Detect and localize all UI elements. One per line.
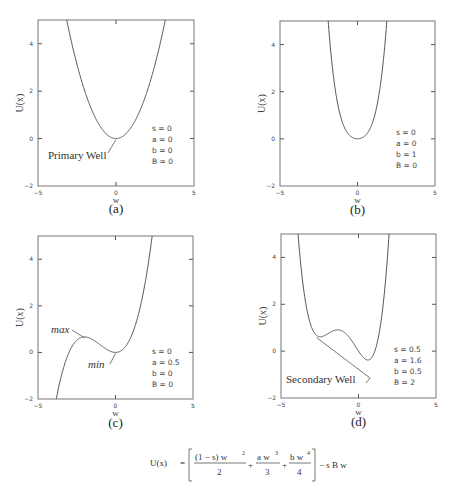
parameter-label: b = 0.5	[394, 367, 422, 376]
parameter-label: B = 0	[152, 157, 173, 166]
y-tick-label: 0	[271, 135, 275, 142]
y-tick-label: 4	[272, 253, 276, 260]
formula-term2-exponent: 3	[275, 450, 278, 456]
y-tick-label: 0	[29, 348, 33, 355]
y-tick-label: −2	[267, 394, 276, 401]
panel-label: (a)	[109, 201, 123, 216]
formula-lhs: U(x)	[150, 458, 167, 468]
chart-panel-d: −2024−505wU(x)s = 0.5a = 1.6b = 0.5B = 2…	[257, 164, 438, 429]
y-axis-title: U(x)	[14, 308, 26, 327]
panel-label: (b)	[350, 202, 365, 217]
x-tick-label: −5	[276, 189, 285, 196]
annotation-primary-well: Primary Well	[48, 149, 107, 161]
annotation-max: max	[51, 323, 69, 335]
formula-plus-1: +	[248, 460, 253, 470]
x-tick-label: −5	[34, 189, 43, 196]
x-tick-label: 5	[434, 401, 438, 408]
formula: U(x) = (1 − s) w 2 2 + a w 3 3 + b w 4 4…	[150, 449, 347, 481]
y-tick-label: 4	[29, 40, 33, 47]
parameter-label: B = 0	[152, 380, 173, 389]
y-tick-label: 2	[271, 88, 275, 95]
formula-plus-2: +	[282, 460, 287, 470]
parameter-label: a = 0.5	[152, 358, 180, 367]
figure: −2024−505wU(x)s = 0a = 0b = 0B = 0Primar…	[0, 0, 452, 489]
chart-panel-c: −2024−505wU(x)s = 0a = 0.5b = 0B = 0maxm…	[14, 166, 195, 469]
y-tick-label: −2	[266, 182, 275, 189]
y-tick-label: 2	[272, 300, 276, 307]
y-tick-label: 4	[271, 41, 275, 48]
annotation-min: min	[88, 358, 105, 370]
formula-term1-numerator: (1 − s) w	[195, 452, 228, 462]
y-tick-label: 2	[29, 87, 33, 94]
x-tick-label: 5	[192, 189, 196, 196]
y-tick-label: 4	[29, 255, 33, 262]
chart-panel-b: −2024−505wU(x)s = 0a = 0b = 1B = 0(b)	[256, 0, 437, 217]
parameter-label: a = 0	[396, 139, 417, 148]
panel-label: (d)	[351, 414, 366, 429]
formula-bracket-left	[189, 449, 192, 481]
formula-term3-denominator: 4	[297, 467, 302, 477]
annotation-leader-line	[72, 330, 85, 338]
parameter-label: a = 1.6	[394, 356, 422, 365]
formula-term3-exponent: 4	[307, 450, 310, 456]
parameter-label: s = 0.5	[394, 345, 421, 354]
formula-term2-numerator: a w	[257, 452, 270, 462]
formula-term1-denominator: 2	[217, 467, 222, 477]
annotation-leader-line	[110, 353, 116, 364]
parameter-label: s = 0	[152, 347, 172, 356]
parameter-label: B = 2	[394, 378, 415, 387]
y-axis-title: U(x)	[256, 94, 268, 113]
annotation-leader-line	[108, 140, 116, 153]
parameter-label: a = 0	[152, 135, 173, 144]
x-tick-label: 5	[433, 189, 437, 196]
y-tick-label: 0	[272, 347, 276, 354]
formula-bracket-right	[312, 449, 315, 481]
formula-equals: =	[180, 458, 185, 468]
formula-term3-numerator: b w	[290, 452, 304, 462]
formula-tail: − s B w	[319, 460, 347, 470]
y-tick-label: 0	[29, 135, 33, 142]
parameter-label: s = 0	[152, 124, 172, 133]
y-tick-label: −2	[24, 395, 33, 402]
x-tick-label: −5	[34, 402, 43, 409]
x-tick-label: −5	[277, 401, 286, 408]
y-tick-label: 2	[29, 302, 33, 309]
chart-panel-a: −2024−505wU(x)s = 0a = 0b = 0B = 0Primar…	[14, 0, 196, 216]
y-tick-label: −2	[24, 182, 33, 189]
x-tick-label: 5	[191, 402, 195, 409]
parameter-label: b = 0	[152, 146, 173, 155]
formula-term1-exponent: 2	[242, 450, 245, 456]
parameter-label: B = 0	[396, 161, 417, 170]
y-axis-title: U(x)	[257, 307, 269, 326]
parameter-label: b = 1	[396, 150, 417, 159]
y-axis-title: U(x)	[14, 94, 26, 113]
formula-term2-denominator: 3	[265, 467, 270, 477]
panel-label: (c)	[108, 415, 122, 430]
parameter-label: b = 0	[152, 369, 173, 378]
annotation-secondary-well: Secondary Well	[286, 373, 355, 385]
parameter-label: s = 0	[396, 128, 416, 137]
